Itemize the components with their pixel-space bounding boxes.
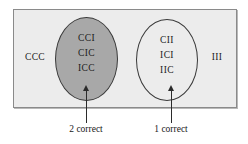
outcome-item: ICC: [55, 61, 118, 76]
outcome-none-correct: III: [200, 52, 234, 62]
venn-diagram: CCI CIC ICC CII ICI IIC CCC III 2 correc…: [0, 0, 248, 144]
outcome-item: CII: [136, 33, 198, 48]
leader-line-two-correct: [86, 88, 87, 123]
outcome-list-two-correct: CCI CIC ICC: [55, 31, 118, 76]
caption-one-correct: 1 correct: [141, 124, 201, 134]
outcome-item: ICI: [136, 48, 198, 63]
outcome-item: CIC: [55, 46, 118, 61]
outcome-list-one-correct: CII ICI IIC: [136, 33, 198, 78]
outcome-item: CCI: [55, 31, 118, 46]
leader-line-one-correct: [171, 88, 172, 123]
arrow-up-icon-one-correct: [168, 85, 174, 91]
arrow-up-icon-two-correct: [83, 85, 89, 91]
caption-two-correct: 2 correct: [56, 124, 116, 134]
outcome-item: IIC: [136, 63, 198, 78]
outcome-all-correct: CCC: [16, 52, 54, 62]
